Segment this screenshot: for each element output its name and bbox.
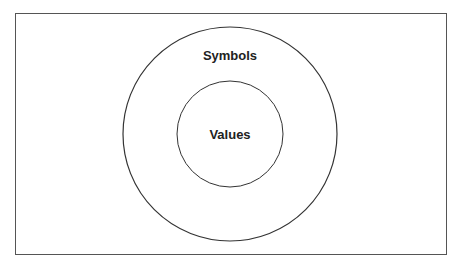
outer-circle-label: Symbols: [203, 48, 257, 63]
inner-circle-label: Values: [209, 127, 250, 142]
nested-circles-diagram: Symbols Values: [0, 0, 463, 262]
